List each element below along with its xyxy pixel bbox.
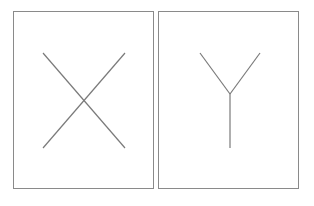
- x-glyph-icon: [14, 12, 155, 190]
- canvas: [0, 0, 314, 206]
- panel-y-glyph: [158, 11, 299, 189]
- y-glyph-icon: [159, 12, 300, 190]
- panel-x-glyph: [13, 11, 154, 189]
